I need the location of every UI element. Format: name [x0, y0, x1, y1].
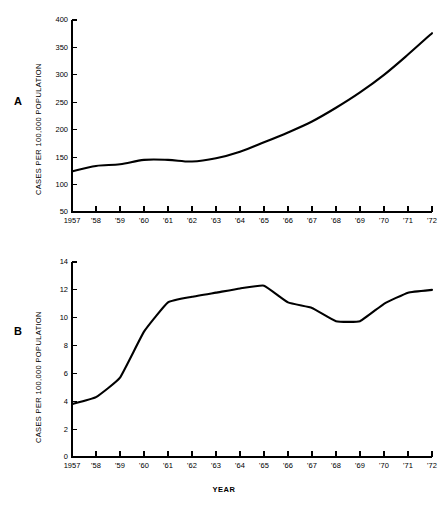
x-tick-label: '60 — [139, 461, 149, 470]
chart-a-svg: 501001502002503003504001957'58'59'60'61'… — [0, 0, 448, 253]
y-tick-label: 12 — [60, 285, 68, 294]
x-tick-label: '58 — [91, 216, 101, 225]
y-axis-title-b: CASES PER 100,000 POPULATION — [34, 311, 43, 443]
x-tick-label: '67 — [307, 216, 317, 225]
y-tick-label: 300 — [55, 70, 68, 79]
axis-lines — [72, 20, 432, 212]
y-tick-label: 400 — [55, 15, 68, 24]
y-tick-label: 2 — [64, 425, 68, 434]
x-tick-label: '60 — [139, 216, 149, 225]
x-tick-label: '62 — [187, 461, 197, 470]
x-tick-label: '65 — [259, 216, 269, 225]
x-tick-label: 1957 — [64, 216, 81, 225]
panel-label-b: B — [14, 325, 22, 337]
x-tick-label: 1957 — [64, 461, 81, 470]
x-tick-label: '61 — [163, 216, 173, 225]
data-series-line — [72, 33, 432, 171]
x-tick-label: '68 — [331, 216, 341, 225]
x-tick-label: '58 — [91, 461, 101, 470]
x-tick-label: '62 — [187, 216, 197, 225]
x-axis-title-b: YEAR — [0, 485, 448, 494]
x-tick-label: '64 — [235, 461, 245, 470]
panel-label-a: A — [14, 95, 22, 107]
x-tick-label: '63 — [211, 461, 221, 470]
x-tick-label: '67 — [307, 461, 317, 470]
data-series-line — [72, 286, 432, 405]
x-tick-label: '68 — [331, 461, 341, 470]
x-tick-label: '64 — [235, 216, 245, 225]
x-tick-label: '69 — [355, 216, 365, 225]
x-tick-label: '63 — [211, 216, 221, 225]
x-tick-label: '69 — [355, 461, 365, 470]
x-tick-label: '71 — [403, 461, 413, 470]
x-tick-label: '66 — [283, 461, 293, 470]
x-tick-label: '65 — [259, 461, 269, 470]
x-tick-label: '61 — [163, 461, 173, 470]
x-tick-label: '59 — [115, 461, 125, 470]
x-tick-label: '59 — [115, 216, 125, 225]
y-tick-label: 6 — [64, 369, 68, 378]
y-tick-label: 10 — [60, 313, 68, 322]
y-tick-label: 4 — [64, 397, 68, 406]
x-tick-label: '72 — [427, 461, 437, 470]
y-tick-label: 350 — [55, 43, 68, 52]
y-tick-label: 8 — [64, 341, 68, 350]
x-tick-label: '71 — [403, 216, 413, 225]
figure-two-panel-line-charts: A CASES PER 100,000 POPULATION 501001502… — [0, 0, 448, 506]
x-tick-label: '70 — [379, 216, 389, 225]
axis-lines — [72, 262, 432, 457]
y-tick-label: 250 — [55, 98, 68, 107]
y-tick-label: 150 — [55, 153, 68, 162]
x-tick-label: '70 — [379, 461, 389, 470]
x-tick-label: '72 — [427, 216, 437, 225]
panel-a: A CASES PER 100,000 POPULATION 501001502… — [0, 0, 448, 253]
x-tick-label: '66 — [283, 216, 293, 225]
panel-b: B CASES PER 100,000 POPULATION YEAR 0246… — [0, 253, 448, 506]
y-tick-label: 14 — [60, 257, 68, 266]
y-tick-label: 100 — [55, 180, 68, 189]
chart-b-svg: 024681012141957'58'59'60'61'62'63'64'65'… — [0, 253, 448, 506]
y-tick-label: 200 — [55, 125, 68, 134]
y-axis-title-a: CASES PER 100,000 POPULATION — [34, 63, 43, 195]
